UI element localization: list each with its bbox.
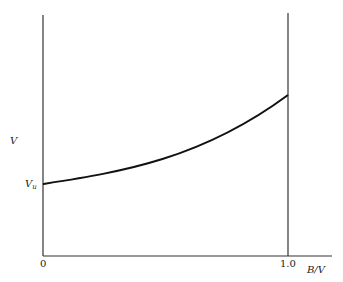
chart-canvas xyxy=(0,0,343,282)
curve xyxy=(43,95,288,184)
x-axis-label: B/V xyxy=(307,265,325,275)
y-axis-label: V xyxy=(10,136,17,146)
vu-subscript: u xyxy=(32,183,37,191)
x-tick-0: 0 xyxy=(40,259,46,269)
vu-label: Vu xyxy=(25,179,37,191)
x-tick-1: 1.0 xyxy=(280,259,296,269)
